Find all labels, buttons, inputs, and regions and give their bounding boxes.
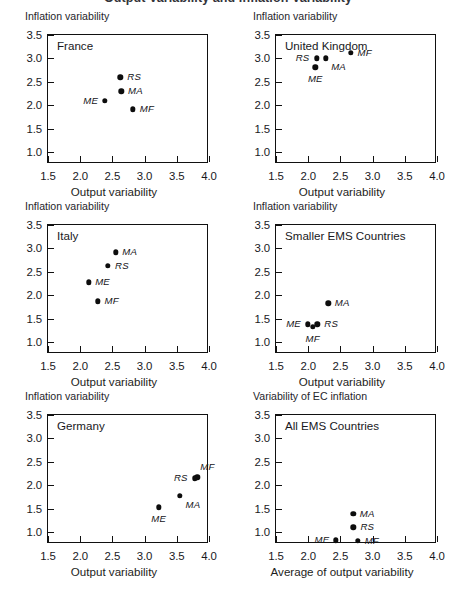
x-tick-mark <box>340 536 341 542</box>
y-tick-label: 3.0 <box>2 242 42 254</box>
x-tick-mark <box>112 536 113 542</box>
data-point-label: ME <box>314 534 329 545</box>
data-point <box>130 106 135 111</box>
scatter-panel: Inflation variabilitySmaller EMS Countri… <box>228 200 456 390</box>
scatter-panel: Inflation variabilityUnited Kingdom1.01.… <box>228 10 456 200</box>
y-tick-label: 2.5 <box>2 76 42 88</box>
y-tick-label: 3.0 <box>230 432 270 444</box>
y-tick-label: 1.0 <box>2 146 42 158</box>
y-tick-mark <box>276 225 282 226</box>
data-point <box>314 56 319 61</box>
data-point <box>351 511 356 516</box>
y-tick-mark <box>276 272 282 273</box>
y-tick-label: 1.5 <box>2 503 42 515</box>
x-tick-mark <box>373 156 374 162</box>
x-tick-mark <box>48 346 49 352</box>
y-tick-label: 1.0 <box>2 526 42 538</box>
panel-title: Germany <box>57 419 105 432</box>
scatter-panel-grid: Inflation variabilityFrance1.01.52.02.53… <box>0 10 456 585</box>
y-tick-mark <box>48 272 54 273</box>
plot-area: United Kingdom1.01.52.02.53.03.51.52.02.… <box>275 34 436 163</box>
plot-area: France1.01.52.02.53.03.51.52.02.53.03.54… <box>47 34 208 163</box>
y-axis-title: Variability of EC inflation <box>253 390 367 402</box>
scatter-panel: Inflation variabilityItaly1.01.52.02.53.… <box>0 200 228 390</box>
y-tick-mark <box>48 295 54 296</box>
y-tick-mark <box>276 152 282 153</box>
y-tick-label: 2.5 <box>2 456 42 468</box>
plot-area: Smaller EMS Countries1.01.52.02.53.03.51… <box>275 224 436 353</box>
y-tick-mark <box>276 82 282 83</box>
y-tick-label: 3.5 <box>2 219 42 231</box>
x-tick-label: 4.0 <box>189 170 229 182</box>
y-tick-label: 2.5 <box>230 76 270 88</box>
scatter-panel: Inflation variabilityFrance1.01.52.02.53… <box>0 10 228 200</box>
x-axis-title: Output variability <box>0 565 228 578</box>
y-tick-mark <box>48 105 54 106</box>
data-point <box>192 476 197 481</box>
y-tick-label: 1.5 <box>230 313 270 325</box>
data-point <box>113 250 118 255</box>
y-tick-label: 3.0 <box>230 242 270 254</box>
y-tick-mark <box>276 295 282 296</box>
y-tick-mark <box>276 58 282 59</box>
y-tick-mark <box>276 509 282 510</box>
data-point-label: RS <box>296 52 310 63</box>
data-point-label: RS <box>360 521 374 532</box>
x-tick-label: 4.0 <box>417 550 456 562</box>
y-axis-title: Inflation variability <box>25 200 109 212</box>
data-point <box>95 299 100 304</box>
y-tick-label: 2.0 <box>230 99 270 111</box>
y-tick-mark <box>48 438 54 439</box>
data-point-label: RS <box>115 259 129 270</box>
y-tick-label: 1.0 <box>2 336 42 348</box>
y-tick-label: 3.5 <box>2 29 42 41</box>
y-tick-label: 3.0 <box>230 52 270 64</box>
x-tick-mark <box>405 346 406 352</box>
data-point-label: MA <box>331 61 346 72</box>
scatter-panel: Inflation variabilityGermany1.01.52.02.5… <box>0 390 228 585</box>
x-tick-mark <box>276 536 277 542</box>
y-tick-label: 3.0 <box>2 432 42 444</box>
y-tick-mark <box>276 415 282 416</box>
y-axis-title: Inflation variability <box>25 10 109 22</box>
data-point <box>323 56 328 61</box>
y-tick-label: 3.5 <box>230 409 270 421</box>
y-tick-mark <box>48 415 54 416</box>
panel-title: Smaller EMS Countries <box>285 229 405 242</box>
data-point <box>325 301 330 306</box>
y-tick-label: 2.5 <box>230 456 270 468</box>
y-tick-mark <box>276 105 282 106</box>
y-tick-mark <box>48 82 54 83</box>
y-tick-label: 2.0 <box>230 289 270 301</box>
plot-area: Germany1.01.52.02.53.03.51.52.02.53.03.5… <box>47 414 208 543</box>
x-tick-mark <box>112 346 113 352</box>
x-tick-mark <box>437 346 438 352</box>
data-point-label: ME <box>83 94 98 105</box>
data-point-label: MA <box>186 498 201 509</box>
x-tick-mark <box>177 156 178 162</box>
data-point <box>105 263 110 268</box>
y-tick-mark <box>276 532 282 533</box>
x-tick-mark <box>48 156 49 162</box>
x-tick-mark <box>340 156 341 162</box>
y-tick-mark <box>276 35 282 36</box>
data-point-label: MF <box>200 461 214 472</box>
y-tick-label: 3.5 <box>2 409 42 421</box>
data-point-label: MA <box>335 297 350 308</box>
y-tick-label: 2.5 <box>230 266 270 278</box>
plot-area: Italy1.01.52.02.53.03.51.52.02.53.03.54.… <box>47 224 208 353</box>
scatter-panel: Variability of EC inflationAll EMS Count… <box>228 390 456 585</box>
x-tick-label: 4.0 <box>417 170 456 182</box>
y-tick-mark <box>48 485 54 486</box>
y-tick-mark <box>276 438 282 439</box>
x-tick-mark <box>177 536 178 542</box>
data-point-label: RS <box>324 318 338 329</box>
y-tick-label: 2.0 <box>2 479 42 491</box>
data-point <box>117 75 122 80</box>
x-tick-mark <box>80 536 81 542</box>
x-tick-mark <box>209 156 210 162</box>
y-tick-label: 1.5 <box>230 503 270 515</box>
x-tick-mark <box>145 346 146 352</box>
data-point <box>177 493 182 498</box>
data-point <box>156 505 161 510</box>
